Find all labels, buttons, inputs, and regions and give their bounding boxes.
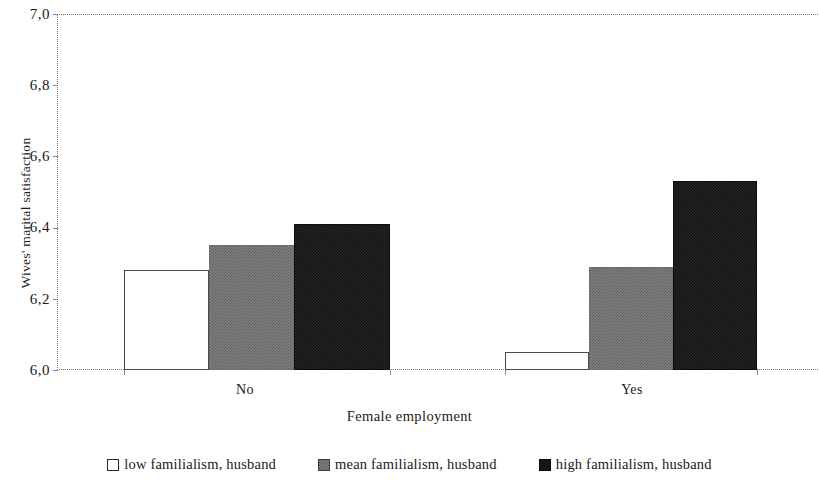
legend-swatch-high-icon [539, 459, 551, 471]
x-tick-mark [124, 370, 125, 375]
bar-no-high [294, 224, 390, 370]
plot-area [57, 14, 818, 370]
y-tick-mark [53, 156, 58, 157]
legend-label-low: low familialism, husband [124, 456, 276, 473]
x-tick-mark [390, 370, 391, 375]
bar-yes-high [673, 181, 757, 370]
y-tick-mark [53, 299, 58, 300]
x-category-label-yes: Yes [572, 382, 692, 398]
y-axis-line [57, 14, 58, 370]
y-tick-mark [53, 14, 58, 15]
legend-item-mean: mean familialism, husband [318, 456, 497, 473]
y-tick-label: 6,6 [6, 149, 50, 164]
y-tick-label: 6,0 [6, 363, 50, 378]
legend-swatch-low-icon [107, 459, 119, 471]
x-category-label-no: No [185, 382, 305, 398]
chart-legend: low familialism, husband mean familialis… [0, 456, 819, 473]
y-tick-label: 6,4 [6, 220, 50, 235]
y-tick-mark [53, 85, 58, 86]
y-tick-mark [53, 228, 58, 229]
y-tick-label: 7,0 [6, 7, 50, 22]
bar-yes-low [505, 352, 589, 370]
bar-yes-mean [589, 267, 673, 370]
plot-top-border [57, 14, 818, 15]
y-tick-mark [53, 370, 58, 371]
legend-label-mean: mean familialism, husband [335, 456, 497, 473]
x-tick-mark [757, 370, 758, 375]
bar-no-low [124, 270, 209, 370]
y-tick-label: 6,2 [6, 292, 50, 307]
bar-chart-figure: Wives' marital satisfaction 7,0 6,8 6,6 … [0, 0, 819, 491]
bar-no-mean [209, 245, 294, 370]
x-axis-title: Female employment [0, 408, 819, 425]
legend-swatch-mean-icon [318, 459, 330, 471]
legend-item-high: high familialism, husband [539, 456, 712, 473]
y-tick-label: 6,8 [6, 78, 50, 93]
x-tick-mark [505, 370, 506, 375]
legend-label-high: high familialism, husband [556, 456, 712, 473]
legend-item-low: low familialism, husband [107, 456, 276, 473]
